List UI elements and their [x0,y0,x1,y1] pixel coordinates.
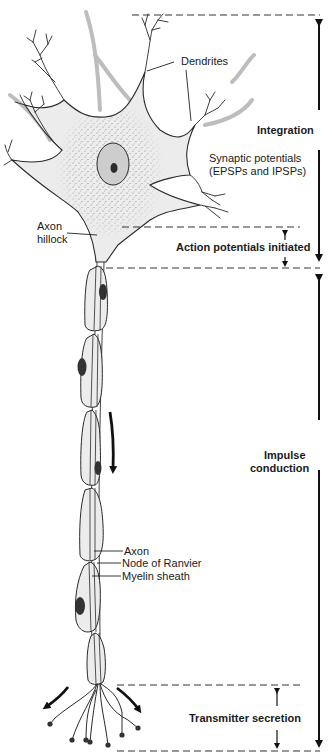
label-transmitter-secretion: Transmitter secretion [189,712,301,725]
label-myelin-sheath: Myelin sheath [122,570,190,583]
label-action-potentials: Action potentials initiated [176,241,310,254]
label-conduction: conduction [250,462,309,475]
terminal-boutons [47,721,140,747]
label-integration: Integration [257,124,314,137]
conduction-arrow [110,412,113,470]
label-dendrites: Dendrites [181,55,228,68]
nucleolus [111,163,118,173]
label-axon-hillock-2: hillock [37,233,68,246]
label-synaptic-potentials: Synaptic potentials [209,152,301,165]
neuron-diagram [0,0,333,754]
label-node-of-ranvier: Node of Ranvier [122,557,202,570]
label-impulse: Impulse [264,449,306,462]
label-axon-hillock-1: Axon [37,220,62,233]
label-epsps-ipsps: (EPSPs and IPSPs) [209,165,306,178]
terminal-arrow-left [46,687,68,707]
myelin-sheaths [75,266,107,684]
